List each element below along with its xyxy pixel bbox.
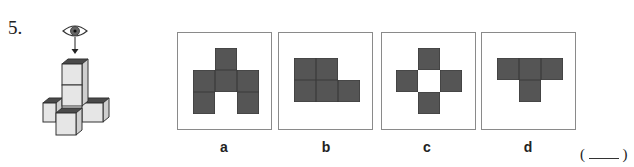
cube-stack-figure [36,20,116,145]
square [418,92,440,114]
square [316,58,338,80]
square [316,80,338,102]
arrow-down-icon [72,37,79,54]
square [237,70,259,92]
option-c-label: c [412,139,442,155]
option-c-box[interactable] [381,32,476,130]
option-d-label: d [513,139,543,155]
square [215,70,237,92]
square [440,70,462,92]
answer-line[interactable] [589,148,619,159]
square [541,58,563,80]
square [193,70,215,92]
square [418,48,440,70]
option-b-label: b [311,139,341,155]
square [519,58,541,80]
answer-close-paren: ) [623,146,628,162]
square [497,58,519,80]
option-a-label: a [209,139,239,155]
answer-blank[interactable]: ( ) [580,146,628,163]
cube-stack-illustration [36,20,116,145]
eye-icon [63,26,87,36]
answer-open-paren: ( [580,146,585,162]
question-number: 5. [8,17,22,39]
option-b-box[interactable] [278,32,373,130]
option-d-box[interactable] [481,32,576,130]
square [519,80,541,102]
square [294,80,316,102]
option-a-box[interactable] [177,32,272,130]
square [396,70,418,92]
square [294,58,316,80]
square [193,92,215,114]
square [338,80,360,102]
square [237,92,259,114]
square [215,48,237,70]
